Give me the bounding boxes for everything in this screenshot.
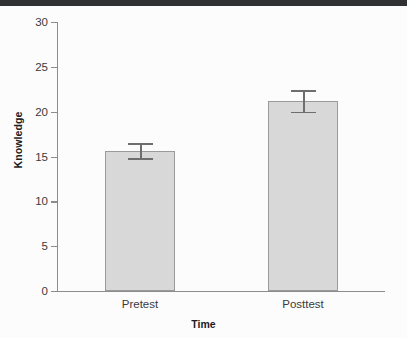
x-tick-label-posttest: Posttest	[248, 298, 358, 310]
y-tick-mark-5	[51, 246, 57, 247]
y-tick-label-5: 5	[22, 241, 48, 253]
error-bar-posttest-cap-upper	[291, 90, 316, 92]
x-axis-title: Time	[0, 318, 407, 330]
error-bar-pretest-line	[140, 143, 142, 158]
error-bar-posttest-cap-lower	[291, 112, 316, 114]
x-axis-line	[57, 291, 385, 292]
y-tick-mark-25	[51, 67, 57, 68]
error-bar-posttest-line	[303, 90, 305, 112]
y-tick-mark-15	[51, 157, 57, 158]
x-tick-label-pretest: Pretest	[85, 298, 195, 310]
plot-area	[58, 22, 385, 291]
y-tick-mark-30	[51, 22, 57, 23]
bar-posttest[interactable]	[268, 101, 338, 291]
y-tick-label-10: 10	[22, 196, 48, 208]
y-tick-mark-0	[51, 291, 57, 292]
bar-chart-figure: 0 5 10 15 20 25 30 Knowledge Time	[0, 6, 407, 338]
y-tick-mark-10	[51, 201, 57, 202]
bar-pretest[interactable]	[105, 151, 175, 291]
y-tick-label-15: 15	[22, 152, 48, 164]
y-axis-title: Knowledge	[12, 100, 24, 180]
y-tick-label-20: 20	[22, 107, 48, 119]
y-tick-mark-20	[51, 112, 57, 113]
error-bar-pretest-cap-lower	[128, 158, 153, 160]
y-tick-label-30: 30	[22, 17, 48, 29]
y-tick-label-0: 0	[22, 286, 48, 298]
error-bar-pretest-cap-upper	[128, 143, 153, 145]
y-tick-label-25: 25	[22, 62, 48, 74]
